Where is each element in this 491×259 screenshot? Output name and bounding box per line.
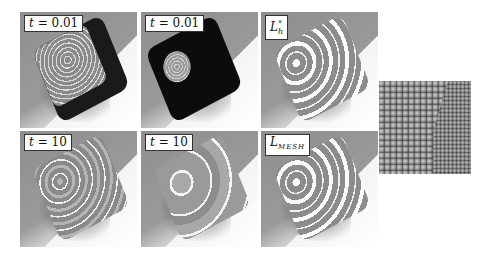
- panel-label: t = 0.01: [24, 15, 83, 32]
- panel-t-10-right: t = 10: [141, 131, 258, 247]
- panel-t-10-left: t = 10: [20, 131, 137, 247]
- lattice-side-face: [433, 81, 471, 174]
- panel-L-mesh: LMESH: [261, 131, 378, 247]
- panel-t-0.01-right: t = 0.01: [141, 12, 258, 128]
- panel-L-h-star: L*h: [261, 12, 378, 128]
- panel-label: t = 0.01: [145, 15, 204, 32]
- contour-pattern: [159, 46, 195, 87]
- panel-label: L*h: [265, 15, 288, 40]
- lattice-inset: [379, 81, 471, 174]
- panel-label: t = 10: [145, 134, 193, 151]
- panel-label: LMESH: [265, 134, 310, 156]
- panel-t-0.01-left: t = 0.01: [20, 12, 137, 128]
- panel-label: t = 10: [24, 134, 72, 151]
